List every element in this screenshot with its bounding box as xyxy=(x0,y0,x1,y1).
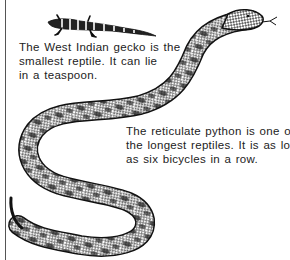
caption-line: The West Indian gecko is the xyxy=(19,40,181,54)
python-caption: The reticulate python is one of the long… xyxy=(126,124,290,166)
caption-line: The reticulate python is one of xyxy=(126,124,290,138)
caption-line: as six bicycles in a row. xyxy=(126,152,290,166)
caption-line: the longest reptiles. It is as long xyxy=(126,138,290,152)
gecko-illustration xyxy=(48,15,156,37)
caption-line: in a teaspoon. xyxy=(19,68,181,82)
gecko-caption: The West Indian gecko is the smallest re… xyxy=(19,40,181,82)
caption-line: smallest reptile. It can lie xyxy=(19,54,181,68)
page: The West Indian gecko is the smallest re… xyxy=(0,0,290,260)
